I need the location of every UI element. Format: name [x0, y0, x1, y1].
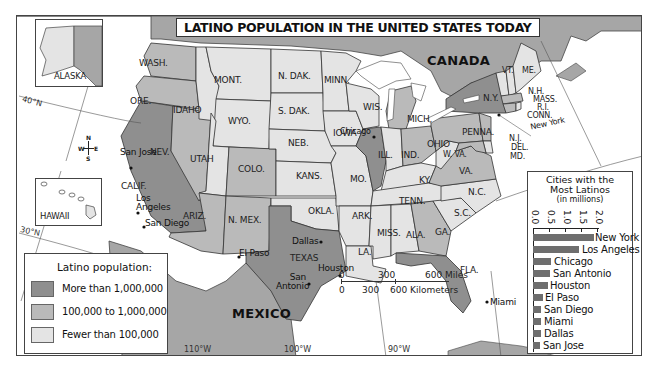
label-me: ME.: [522, 66, 536, 75]
city-dot-dallas: [319, 240, 322, 243]
city-san-jose: San Jose: [120, 148, 144, 157]
label-mont: MONT.: [214, 75, 242, 85]
scale-km-300: 300: [362, 285, 379, 295]
label-wyo: WYO.: [228, 116, 251, 126]
bar-label: San Jose: [543, 340, 584, 351]
bar: [533, 270, 550, 277]
lon-110-label: 110°W: [184, 345, 211, 354]
label-okla: OKLA.: [308, 206, 334, 216]
label-kans: KANS.: [296, 171, 322, 181]
bar-label: Houston: [550, 280, 590, 291]
city-dot-san-jose: [129, 166, 132, 169]
compass-south: S: [86, 155, 90, 162]
bar: [533, 282, 548, 289]
city-dot-miami: [485, 300, 488, 303]
label-w-va: W. VA.: [443, 150, 467, 159]
scale-tick-0: [341, 279, 342, 284]
label-vt: VT.: [502, 66, 513, 75]
label-ohio: OHIO: [427, 139, 450, 149]
map-legend: Latino population: More than 1,000,000 1…: [24, 253, 168, 354]
label-tenn: TENN.: [399, 196, 426, 206]
alaska-label: ALASKA: [54, 71, 86, 81]
tick-1-5: [581, 228, 582, 232]
bar: [533, 258, 551, 265]
scale-miles-600: 600 Miles: [425, 270, 468, 280]
label-miss: MISS.: [377, 228, 401, 238]
city-el-paso: El Paso: [239, 249, 269, 258]
label-nj: N.J.: [509, 134, 522, 143]
city-san-diego: San Diego: [145, 219, 189, 228]
legend-swatch-light: [31, 327, 54, 343]
compass-north: N: [86, 134, 91, 141]
bar-label: San Diego: [544, 304, 593, 315]
label-ill: ILL.: [378, 150, 393, 160]
label-ala: ALA.: [406, 230, 425, 240]
tick-1-0: [565, 228, 566, 232]
label-ore: ORE.: [130, 96, 151, 106]
label-wis: WIS.: [363, 102, 382, 112]
bar-label: Los Angeles: [582, 244, 640, 255]
label-ind: IND.: [401, 150, 419, 160]
legend-item-fewer-than-100k: Fewer than 100,000: [31, 327, 161, 345]
hawaii-label: HAWAII: [40, 211, 69, 221]
label-ga: GA.: [435, 227, 450, 237]
legend-item-more-than-1m: More than 1,000,000: [31, 281, 161, 299]
nova-scotia-landmass: [556, 63, 586, 81]
label-del: DEL.: [511, 143, 528, 152]
label-nc: N.C.: [468, 187, 486, 197]
label-mich: MICH.: [407, 114, 432, 124]
legend-title: Latino population:: [57, 261, 152, 273]
label-n-dak: N. DAK.: [278, 71, 311, 81]
compass-cross-h: [83, 148, 94, 149]
label-penna: PENNA.: [462, 127, 494, 137]
city-dallas: Dallas: [292, 237, 318, 246]
bar-label: El Paso: [545, 292, 579, 303]
legend-label: More than 1,000,000: [62, 283, 163, 294]
label-ny: N.Y.: [483, 93, 498, 103]
tick-label-2-0: 2.0: [594, 210, 604, 224]
canada-label: CANADA: [427, 53, 490, 68]
scale-miles-300: 300: [378, 270, 395, 280]
bar-label: New York: [595, 232, 639, 243]
state-n-mex: [223, 196, 271, 254]
label-va: VA.: [459, 166, 473, 176]
tick-label-0: 0.0: [530, 210, 540, 224]
tick-0-5: [549, 228, 550, 232]
scale-tick-mid: [395, 279, 396, 284]
bar: [533, 234, 594, 241]
scale-bar: 0 300 600 Miles 0 300 600 Kilometers: [339, 270, 499, 300]
bar: [533, 342, 540, 349]
bar: [533, 294, 543, 301]
scale-km-0: 0: [339, 285, 345, 295]
compass-east: E: [94, 145, 98, 152]
bar-label: Miami: [544, 316, 573, 327]
cities-bar-chart: Cities with the Most Latinos (in million…: [527, 171, 633, 354]
city-dot-chicago: [372, 135, 375, 138]
tick-label-0-5: 0.5: [546, 210, 556, 224]
lake-superior: [356, 61, 411, 89]
label-n-mex: N. MEX.: [228, 215, 262, 225]
bar-label: San Antonio: [553, 268, 611, 279]
label-s-dak: S. DAK.: [278, 106, 310, 116]
label-neb: NEB.: [288, 138, 309, 148]
lon-100-label: 100°W: [284, 345, 311, 354]
label-calif: CALIF.: [121, 181, 147, 191]
map-title: LATINO POPULATION IN THE UNITED STATES T…: [176, 18, 540, 37]
bar: [533, 330, 541, 337]
label-la: LA.: [358, 247, 371, 257]
label-mo: MO.: [350, 174, 367, 184]
legend-swatch-dark: [31, 281, 54, 297]
mexico-label: MEXICO: [232, 306, 291, 321]
state-ri: [516, 102, 521, 111]
label-utah: UTAH: [190, 154, 214, 164]
chart-title-line2: Most Latinos: [528, 185, 632, 195]
alaska-inset: ALASKA: [35, 19, 103, 87]
tick-label-1-0: 1.0: [562, 210, 572, 224]
legend-item-100k-to-1m: 100,000 to 1,000,000: [31, 304, 161, 322]
chart-x-axis: [533, 228, 599, 229]
lon-90-label: 90°W: [388, 345, 410, 354]
label-idaho: IDAHO: [173, 105, 201, 115]
city-san-antonio: San Antonio: [276, 273, 306, 291]
scale-km-600: 600 Kilometers: [390, 285, 458, 295]
label-md: MD.: [510, 152, 525, 161]
